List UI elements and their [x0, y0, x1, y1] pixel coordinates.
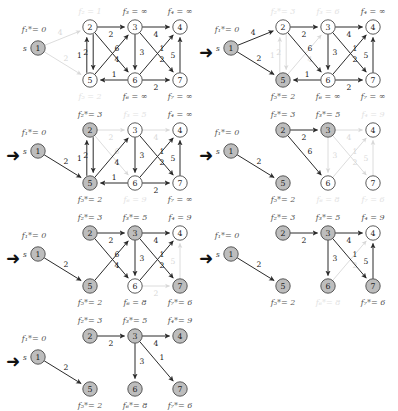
edge-weight-3-6: 3: [333, 254, 338, 263]
edge-6-4: [333, 35, 367, 75]
distance-label-2: f₂*= 3: [270, 213, 296, 222]
edge-weight-5-3: 4: [114, 261, 119, 270]
distance-label-4: f₄ = ∞: [360, 7, 386, 16]
graph-svg-1: 422261443121251sf₁*= 02f₂ = 13f₃ = ∞4f₄ …: [0, 0, 200, 103]
edge-6-4: [333, 138, 367, 178]
graph-node-label-2: 2: [88, 23, 93, 32]
source-marker: s: [216, 44, 220, 53]
distance-label-1: f₁*= 0: [214, 25, 240, 34]
edge-weight-1-5: 2: [64, 54, 69, 63]
edge-weight-2-5: 2: [276, 48, 281, 57]
edge-1-2: [238, 31, 274, 45]
edge-weight-7-4: 5: [364, 257, 369, 266]
distance-label-7: f₇ = ∞: [167, 195, 193, 204]
distance-label-6: f₆ = 8: [315, 195, 339, 204]
edge-weight-1-5: 2: [64, 363, 69, 372]
edge-weight-3-4: 4: [153, 30, 158, 39]
edge-weight-2-3: 2: [108, 236, 113, 245]
distance-label-5: f₅*= 2: [77, 195, 103, 204]
graph-node-label-3: 3: [326, 229, 331, 238]
graph-node-label-7: 7: [178, 76, 183, 85]
edge-weight-6-5: 1: [305, 70, 310, 79]
graph-node-label-1: 1: [229, 44, 234, 53]
distance-label-7: f₇ = ∞: [167, 92, 193, 101]
distance-label-6: f₆ = 8: [122, 298, 146, 307]
edge-weight-3-6: 3: [333, 151, 338, 160]
graph-node-label-1: 1: [36, 147, 41, 156]
distance-label-7: f₇*= 6: [167, 401, 193, 410]
edge-weight-6-4: 2: [352, 55, 357, 64]
distance-label-4: f₄ = ∞: [167, 110, 193, 119]
graph-node-label-1: 1: [36, 353, 41, 362]
graph-svg-2: 214422643121251sf₁*= 02f₂*= 33f₃ = 64f₄ …: [193, 0, 393, 103]
edge-weight-3-6: 3: [140, 357, 145, 366]
graph-node-label-2: 2: [281, 229, 286, 238]
distance-label-5: f₅ = 2: [77, 92, 101, 101]
distance-label-6: f₆ = ∞: [315, 92, 341, 101]
distance-label-6: f₆ = 9: [122, 195, 146, 204]
edge-weight-3-6: 3: [140, 254, 145, 263]
edge-weight-3-4: 4: [153, 236, 158, 245]
edge-6-4: [140, 241, 174, 281]
edge-weight-2-3: 2: [301, 133, 306, 142]
edge-5-3: [95, 241, 129, 281]
source-marker: s: [216, 250, 220, 259]
graph-panel-5: ➜25226443121sf₁*= 02f₂*= 33f₃*= 54f₄ = 9…: [0, 206, 200, 309]
graph-node-label-4: 4: [371, 229, 376, 238]
edge-weight-2-3: 2: [108, 339, 113, 348]
step-arrow-3: ➜: [6, 147, 20, 164]
distance-label-3: f₃*= 5: [315, 213, 341, 222]
graph-node-label-7: 7: [178, 179, 183, 188]
distance-label-7: f₇ = ∞: [360, 92, 386, 101]
graph-panel-3: ➜26422143121251sf₁*= 02f₂*= 33f₃ = 54f₄ …: [0, 103, 200, 206]
distance-label-3: f₃*= 5: [315, 110, 341, 119]
graph-node-label-7: 7: [178, 385, 183, 394]
distance-label-7: f₇*= 6: [360, 298, 386, 307]
edge-weight-5-3: 4: [114, 158, 119, 167]
edge-6-4: [140, 35, 174, 75]
distance-label-2: f₂*= 3: [270, 7, 296, 16]
edge-weight-2-3: 2: [108, 30, 113, 39]
graph-panel-6: ➜22243151sf₁*= 02f₂*= 33f₃*= 54f₄ = 95f₅…: [193, 206, 393, 309]
distance-label-6: f₆ = ∞: [122, 92, 148, 101]
distance-label-3: f₃ = 6: [315, 7, 339, 16]
edge-weight-1-5: 2: [257, 54, 262, 63]
distance-label-2: f₂*= 3: [270, 110, 296, 119]
graph-svg-3: 26422143121251sf₁*= 02f₂*= 33f₃ = 54f₄ =…: [0, 103, 200, 206]
edge-weight-2-5: 2: [83, 151, 88, 160]
graph-node-label-6: 6: [326, 179, 331, 188]
edge-weight-6-5: 1: [112, 70, 117, 79]
edge-weight-2-6: 6: [307, 147, 312, 156]
edge-weight-2-3: 2: [301, 30, 306, 39]
edge-weight-5-2: 1: [270, 51, 275, 60]
edge-weight-3-6: 3: [333, 48, 338, 57]
distance-label-3: f₃*= 5: [122, 316, 148, 325]
graph-node-label-5: 5: [88, 76, 93, 85]
distance-label-6: f₆*= 8: [122, 401, 148, 410]
source-marker: s: [23, 44, 27, 53]
edge-weight-6-7: 2: [153, 83, 158, 92]
graph-node-label-3: 3: [133, 126, 138, 135]
edge-weight-7-4: 5: [364, 51, 369, 60]
edge-weight-6-5: 1: [112, 173, 117, 182]
source-marker: s: [216, 147, 220, 156]
distance-label-4: f₄ = ∞: [167, 7, 193, 16]
distance-label-5: f₅*= 2: [270, 195, 296, 204]
edge-weight-7-4: 5: [364, 154, 369, 163]
distance-label-3: f₃ = ∞: [122, 7, 148, 16]
distance-label-4: f₄ = 9: [167, 213, 191, 222]
distance-label-3: f₃*= 5: [122, 213, 148, 222]
step-arrow-4: ➜: [199, 147, 213, 164]
distance-label-5: f₅*= 2: [270, 298, 296, 307]
distance-label-1: f₁*= 0: [21, 231, 47, 240]
graph-node-label-4: 4: [178, 229, 183, 238]
graph-panel-7: ➜224311sf₁*= 02f₂*= 33f₃*= 54f₄*= 95f₅*=…: [0, 309, 200, 411]
edge-weight-2-3: 2: [108, 133, 113, 142]
graph-node-label-2: 2: [281, 126, 286, 135]
edge-5-3: [95, 138, 129, 178]
graph-svg-4: 431252261sf₁*= 02f₂*= 33f₃*= 54f₄ = 95f₅…: [193, 103, 393, 206]
graph-svg-5: 25226443121sf₁*= 02f₂*= 33f₃*= 54f₄ = 95…: [0, 206, 200, 309]
distance-label-2: f₂*= 3: [77, 316, 103, 325]
graph-node-label-4: 4: [178, 126, 183, 135]
graph-node-label-4: 4: [371, 126, 376, 135]
